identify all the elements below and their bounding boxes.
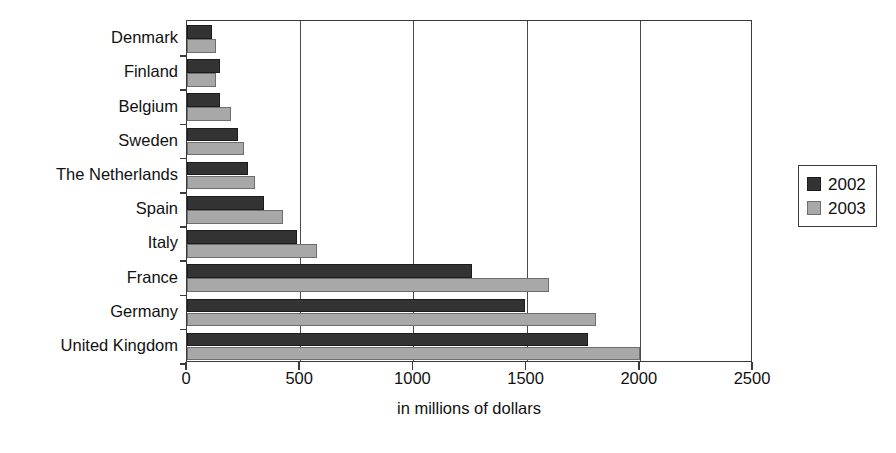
bar-row bbox=[187, 89, 751, 123]
dark-swatch-icon bbox=[807, 177, 821, 191]
x-axis-tick-labels: 05001000150020002500 bbox=[0, 370, 896, 392]
bar-2003-united-kingdom bbox=[187, 347, 640, 361]
y-label-germany: Germany bbox=[0, 303, 178, 320]
x-tick-label-500: 500 bbox=[285, 370, 313, 387]
bar-2002-denmark bbox=[187, 25, 212, 39]
x-axis-ticks bbox=[186, 362, 752, 370]
y-tick-8 bbox=[180, 329, 187, 331]
y-label-italy: Italy bbox=[0, 234, 178, 251]
chart-figure: DenmarkFinlandBelgiumSwedenThe Netherlan… bbox=[0, 0, 896, 453]
bar-series-group bbox=[187, 21, 751, 361]
legend-item-2002: 2002 bbox=[807, 172, 866, 196]
y-label-denmark: Denmark bbox=[0, 29, 178, 46]
bar-2003-italy bbox=[187, 244, 317, 258]
y-tick-0 bbox=[180, 55, 187, 57]
bar-2003-sweden bbox=[187, 142, 244, 156]
legend-label-2002: 2002 bbox=[828, 176, 866, 193]
x-tick-label-1000: 1000 bbox=[394, 370, 431, 387]
bar-row bbox=[187, 124, 751, 158]
y-label-sweden: Sweden bbox=[0, 132, 178, 149]
y-label-united-kingdom: United Kingdom bbox=[0, 337, 178, 354]
bar-2002-sweden bbox=[187, 128, 238, 142]
y-label-france: France bbox=[0, 269, 178, 286]
x-tick-label-2000: 2000 bbox=[620, 370, 657, 387]
bar-2003-finland bbox=[187, 73, 216, 87]
y-tick-7 bbox=[180, 295, 187, 297]
bar-2003-denmark bbox=[187, 39, 216, 53]
legend-item-2003: 2003 bbox=[807, 196, 866, 220]
bar-2002-germany bbox=[187, 299, 525, 313]
y-label-spain: Spain bbox=[0, 200, 178, 217]
light-swatch-icon bbox=[807, 201, 821, 215]
bar-2003-the-netherlands bbox=[187, 176, 255, 190]
bar-2002-finland bbox=[187, 59, 220, 73]
y-axis-labels: DenmarkFinlandBelgiumSwedenThe Netherlan… bbox=[0, 20, 178, 362]
bar-2003-belgium bbox=[187, 107, 231, 121]
bar-row bbox=[187, 158, 751, 192]
y-label-belgium: Belgium bbox=[0, 98, 178, 115]
y-tick-6 bbox=[180, 260, 187, 262]
x-axis-title: in millions of dollars bbox=[186, 400, 752, 417]
y-tick-3 bbox=[180, 158, 187, 160]
legend-label-2003: 2003 bbox=[828, 200, 866, 217]
bar-2002-the-netherlands bbox=[187, 162, 248, 176]
y-tick-5 bbox=[180, 226, 187, 228]
bar-row bbox=[187, 295, 751, 329]
bar-2002-spain bbox=[187, 196, 264, 210]
x-tick-label-1500: 1500 bbox=[507, 370, 544, 387]
bar-row bbox=[187, 329, 751, 363]
y-label-the-netherlands: The Netherlands bbox=[0, 166, 178, 183]
y-label-finland: Finland bbox=[0, 63, 178, 80]
bar-2003-germany bbox=[187, 313, 596, 327]
plot-area bbox=[186, 20, 752, 362]
bar-2002-france bbox=[187, 264, 472, 278]
bar-2002-belgium bbox=[187, 93, 220, 107]
chart-legend: 2002 2003 bbox=[798, 165, 877, 227]
y-tick-2 bbox=[180, 124, 187, 126]
bar-2002-italy bbox=[187, 230, 297, 244]
y-tick-4 bbox=[180, 192, 187, 194]
bar-row bbox=[187, 55, 751, 89]
x-tick-label-0: 0 bbox=[181, 370, 190, 387]
bar-row bbox=[187, 260, 751, 294]
y-tick-1 bbox=[180, 89, 187, 91]
bar-2003-france bbox=[187, 278, 549, 292]
bar-2003-spain bbox=[187, 210, 283, 224]
x-tick-label-2500: 2500 bbox=[734, 370, 771, 387]
bar-2002-united-kingdom bbox=[187, 333, 588, 347]
bar-row bbox=[187, 226, 751, 260]
bar-row bbox=[187, 192, 751, 226]
bar-row bbox=[187, 21, 751, 55]
